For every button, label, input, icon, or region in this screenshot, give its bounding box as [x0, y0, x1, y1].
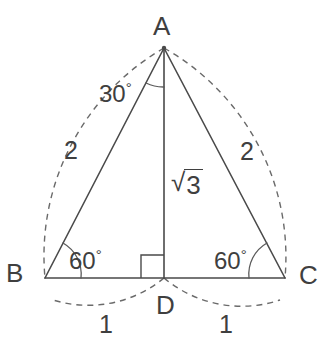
- angle-label-base-left-60: 60°: [69, 247, 102, 273]
- degree-symbol-base-left: °: [96, 246, 102, 263]
- radicand-value: 3: [184, 169, 202, 198]
- geometry-figure: A B C D 30° 60° 60° 2 2 √ 3 1 1: [0, 0, 323, 350]
- degree-symbol-apex: °: [126, 79, 132, 96]
- vertex-label-c: C: [299, 262, 318, 288]
- arc-centered-b-radius-1: [50, 278, 164, 305]
- angle-value-apex: 30: [99, 80, 126, 107]
- vertex-label-a: A: [153, 13, 170, 39]
- altitude-label-sqrt3: √ 3: [171, 169, 203, 198]
- angle-value-base-right: 60: [214, 247, 241, 274]
- base-label-right-1: 1: [219, 312, 233, 337]
- vertex-label-d: D: [156, 292, 175, 318]
- angle-label-base-right-60: 60°: [214, 247, 247, 273]
- angle-label-apex-30: 30°: [99, 80, 132, 106]
- angle-arc-base-right: [249, 243, 267, 278]
- angle-arc-apex: [146, 83, 164, 87]
- vertex-dot-a: [162, 46, 166, 50]
- side-label-left-2: 2: [64, 138, 78, 163]
- radical-sign-icon: √: [171, 169, 185, 195]
- angle-value-base-left: 60: [69, 247, 96, 274]
- arc-centered-c-radius-1: [164, 278, 280, 306]
- vertex-label-b: B: [6, 260, 23, 286]
- side-label-right-2: 2: [240, 139, 254, 164]
- base-label-left-1: 1: [99, 312, 113, 337]
- degree-symbol-base-right: °: [241, 246, 247, 263]
- right-angle-marker: [141, 255, 164, 278]
